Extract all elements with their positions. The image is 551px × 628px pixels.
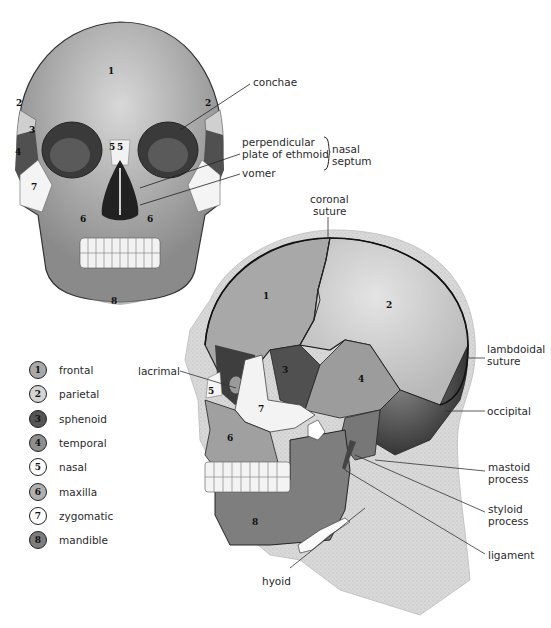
side-head: 1 2 3 4 5 6 7 8 (185, 230, 475, 615)
legend-swatch-temporal: 4 (29, 434, 47, 452)
label-nasal-septum-line1: nasal (332, 143, 360, 155)
legend-swatch-parietal: 2 (29, 385, 47, 403)
svg-text:5: 5 (117, 142, 123, 152)
legend-swatch-maxilla: 6 (29, 483, 47, 501)
legend-label: temporal (59, 437, 107, 449)
svg-text:4: 4 (358, 374, 364, 384)
svg-text:7: 7 (31, 182, 37, 192)
svg-text:2: 2 (16, 98, 22, 108)
legend-swatch-zygomatic: 7 (29, 507, 47, 525)
legend-item-parietal: 2 parietal (29, 382, 113, 406)
label-conchae: conchae (253, 76, 297, 88)
legend-item-frontal: 1 frontal (29, 358, 113, 382)
legend-label: parietal (59, 388, 99, 400)
svg-text:3: 3 (29, 125, 35, 135)
svg-text:1: 1 (263, 291, 269, 301)
legend-item-mandible: 8 mandible (29, 528, 113, 552)
legend-label: maxilla (59, 486, 97, 498)
label-vomer: vomer (242, 167, 276, 179)
legend-item-zygomatic: 7 zygomatic (29, 504, 113, 528)
legend-label: mandible (59, 534, 108, 546)
label-lambdoidal-suture-line2: suture (487, 355, 520, 367)
label-mastoid-process-line2: process (488, 473, 528, 485)
label-coronal-suture-line1: coronal (310, 193, 349, 205)
svg-text:4: 4 (15, 147, 21, 157)
svg-text:5: 5 (109, 142, 115, 152)
label-lambdoidal-suture-line1: lambdoidal (487, 343, 545, 355)
front-skull: 1 2 2 3 4 5 5 6 6 7 8 (15, 22, 224, 306)
label-styloid-process-line1: styloid (488, 503, 523, 515)
legend-label: nasal (59, 461, 87, 473)
legend-label: sphenoid (59, 413, 107, 425)
bone-legend: 1 frontal 2 parietal 3 sphenoid 4 tempor… (29, 358, 113, 552)
legend-label: zygomatic (59, 510, 113, 522)
svg-text:1: 1 (108, 66, 114, 76)
svg-text:5: 5 (208, 386, 214, 396)
label-occipital: occipital (487, 405, 531, 417)
legend-label: frontal (59, 364, 93, 376)
svg-text:8: 8 (252, 517, 258, 527)
label-styloid-process-line2: process (488, 515, 528, 527)
label-ligament: ligament (488, 549, 534, 561)
svg-text:8: 8 (111, 296, 117, 306)
legend-item-nasal: 5 nasal (29, 455, 113, 479)
legend-item-sphenoid: 3 sphenoid (29, 407, 113, 431)
svg-text:6: 6 (147, 214, 153, 224)
label-nasal-septum-line2: septum (332, 155, 372, 167)
legend-item-maxilla: 6 maxilla (29, 479, 113, 503)
svg-text:6: 6 (227, 433, 233, 443)
legend-swatch-nasal: 5 (29, 458, 47, 476)
legend-swatch-sphenoid: 3 (29, 410, 47, 428)
label-perpendicular-plate-line1: perpendicular (242, 136, 315, 148)
label-coronal-suture-line2: suture (313, 205, 346, 217)
svg-text:2: 2 (205, 98, 211, 108)
svg-text:2: 2 (386, 300, 392, 310)
svg-text:3: 3 (282, 365, 288, 375)
label-mastoid-process-line1: mastoid (488, 461, 530, 473)
legend-swatch-frontal: 1 (29, 361, 47, 379)
label-perpendicular-plate-line2: plate of ethmoid (242, 148, 329, 160)
svg-text:7: 7 (258, 404, 264, 414)
legend-item-temporal: 4 temporal (29, 431, 113, 455)
label-hyoid: hyoid (262, 575, 291, 587)
legend-swatch-mandible: 8 (29, 531, 47, 549)
svg-text:6: 6 (80, 214, 86, 224)
label-lacrimal: lacrimal (138, 365, 180, 377)
